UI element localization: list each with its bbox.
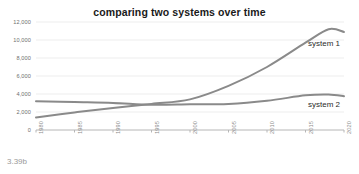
series-label-2: system 2 — [308, 100, 340, 109]
y-tick-label: 6,000 — [0, 73, 31, 79]
chart-figure: comparing two systems over time 02,0004,… — [0, 0, 359, 174]
x-tick-label: 1980 — [38, 121, 44, 134]
figure-caption: 3.39b — [7, 157, 27, 166]
x-tick-label: 2000 — [192, 121, 198, 134]
y-tick-label: 10,000 — [0, 37, 31, 43]
plot-area — [0, 0, 359, 174]
y-tick-label: 4,000 — [0, 91, 31, 97]
x-tick-label: 1995 — [154, 121, 160, 134]
y-tick-label: 0 — [0, 127, 31, 133]
series-lines — [36, 29, 344, 118]
x-tick-label: 2015 — [308, 121, 314, 134]
y-tick-label: 12,000 — [0, 19, 31, 25]
x-tick-label: 1990 — [115, 121, 121, 134]
y-tick-label: 2,000 — [0, 109, 31, 115]
x-tick-label: 2020 — [346, 121, 352, 134]
x-tick-label: 2010 — [269, 121, 275, 134]
x-tick-label: 2005 — [231, 121, 237, 134]
x-tick-label: 1985 — [77, 121, 83, 134]
series-label-1: system 1 — [308, 39, 340, 48]
y-tick-label: 8,000 — [0, 55, 31, 61]
